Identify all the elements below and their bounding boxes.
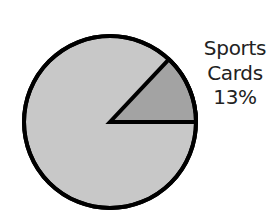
slice-label-line1: Sports bbox=[200, 36, 270, 61]
slice-label-percent: 13% bbox=[200, 85, 270, 110]
pie-chart: Sports Cards 13% bbox=[0, 0, 274, 216]
slice-label-line2: Cards bbox=[200, 61, 270, 86]
slice-label-sports-cards: Sports Cards 13% bbox=[200, 36, 270, 110]
